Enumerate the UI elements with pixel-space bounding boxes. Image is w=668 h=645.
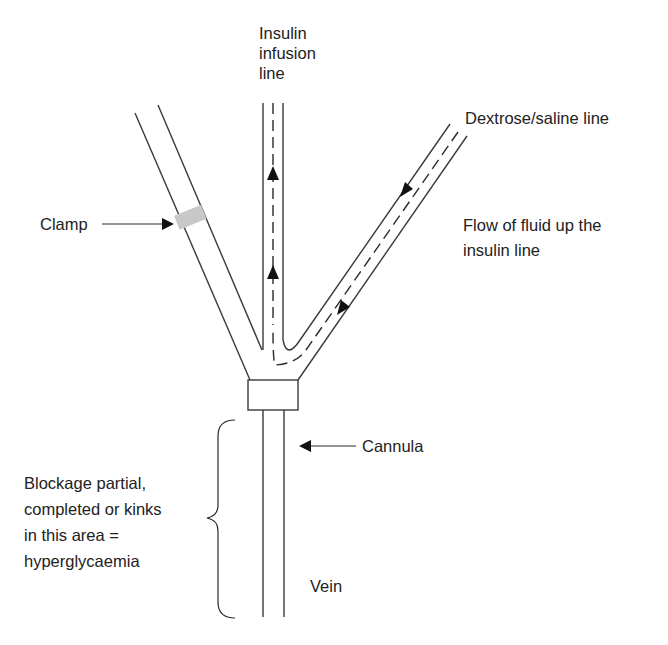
dextrose-line — [273, 124, 467, 380]
blockage-note-line-4: hyperglycaemia — [24, 548, 162, 574]
dextrose-line-label: Dextrose/saline line — [465, 108, 609, 128]
cannula-pointer-arrowhead — [299, 440, 311, 452]
vein-label: Vein — [310, 576, 342, 596]
clamped-line — [135, 105, 262, 380]
blockage-note-line-2: completed or kinks — [24, 496, 162, 522]
clamped-line-wall-right — [158, 105, 262, 350]
insulin-line-label-2: infusion — [259, 43, 316, 63]
cannula-pointer — [299, 440, 356, 452]
clamp-pointer — [102, 218, 174, 230]
clamped-line-wall-left — [135, 113, 250, 380]
vein — [263, 410, 284, 617]
cannula-connector — [248, 380, 298, 410]
insulin-line-label: Insulin infusion line — [259, 23, 316, 83]
clamp-label: Clamp — [40, 214, 88, 234]
clamp — [174, 205, 207, 230]
insulin-line — [263, 103, 283, 350]
dextrose-flow-arrow-1 — [400, 182, 413, 197]
dextrose-line-wall-outer — [298, 136, 467, 380]
flow-note-line-1: Flow of fluid up the — [463, 213, 602, 238]
insulin-flow-arrow-up-1 — [267, 166, 279, 180]
insulin-line-label-1: Insulin — [259, 23, 316, 43]
flow-note: Flow of fluid up the insulin line — [463, 213, 602, 263]
flow-note-line-2: insulin line — [463, 238, 602, 263]
blockage-area-brace — [207, 420, 235, 618]
cannula-label: Cannula — [362, 436, 423, 456]
blockage-note-line-3: in this area = — [24, 522, 162, 548]
insulin-flow-arrow-up-2 — [267, 265, 279, 279]
dextrose-line-flow-centre — [273, 132, 458, 365]
blockage-note: Blockage partial, completed or kinks in … — [24, 470, 162, 574]
clamp-pointer-arrowhead — [162, 218, 174, 230]
insulin-line-label-3: line — [259, 63, 316, 83]
dextrose-line-wall-inner — [283, 124, 450, 350]
blockage-note-line-1: Blockage partial, — [24, 470, 162, 496]
